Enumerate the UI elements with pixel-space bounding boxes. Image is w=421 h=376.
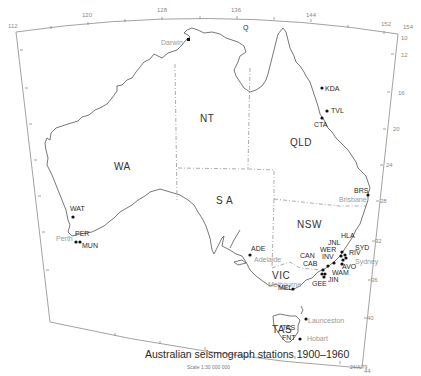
station-label-per: PER bbox=[75, 230, 89, 237]
kangaroo-island bbox=[234, 260, 246, 265]
station-dot-per bbox=[74, 240, 77, 243]
state-label-wa: WA bbox=[114, 161, 131, 172]
lon-label-154: 154 bbox=[403, 24, 414, 30]
latitude-labels: 10 12 16 20 24 28 32 36 40 44 bbox=[364, 35, 408, 374]
border-nt-sa bbox=[178, 168, 248, 169]
border-sa-qld bbox=[248, 169, 274, 199]
state-label-nt: NT bbox=[200, 113, 214, 124]
spencer-gulf bbox=[230, 230, 240, 248]
station-label-gee: GEE bbox=[312, 280, 327, 287]
state-label-qld: QLD bbox=[290, 137, 312, 148]
station-dot-darwin bbox=[187, 38, 190, 41]
top-graticule-line bbox=[16, 18, 398, 34]
station-dot-cab bbox=[321, 268, 324, 271]
flinders-island bbox=[301, 306, 303, 314]
station-dot-launceston bbox=[304, 317, 307, 320]
station-label-kda: KDA bbox=[325, 85, 340, 92]
station-label-fnt: FNT bbox=[282, 334, 296, 341]
station-dot-hla bbox=[340, 250, 343, 253]
station-dot-wer bbox=[341, 258, 344, 261]
station-dot-kda bbox=[320, 86, 323, 89]
station-labels: KDA TVL CTA BRS HLA JNL SYD RIV WER INV … bbox=[70, 85, 369, 341]
lon-label-144: 144 bbox=[306, 12, 317, 18]
station-dot-inv bbox=[332, 261, 335, 264]
station-label-brs: BRS bbox=[354, 187, 369, 194]
lat-label-12: 12 bbox=[401, 52, 408, 58]
lon-label-120: 120 bbox=[82, 12, 93, 18]
left-graticule-line bbox=[16, 32, 50, 322]
city-brisbane: Brisbane bbox=[339, 196, 367, 203]
station-label-mun: MUN bbox=[82, 242, 98, 249]
lat-label-40: 40 bbox=[367, 315, 374, 321]
lat-label-32: 32 bbox=[375, 238, 382, 244]
lon-label-152: 152 bbox=[381, 21, 392, 27]
station-label-jnl: JNL bbox=[328, 239, 341, 246]
city-launceston: Launceston bbox=[308, 317, 344, 324]
station-dot-syd bbox=[343, 253, 346, 256]
station-label-wam: WAM bbox=[332, 269, 349, 276]
lon-label-128: 128 bbox=[157, 7, 168, 13]
city-perth: Perth bbox=[56, 235, 73, 242]
city-darwin: Darwin bbox=[161, 39, 183, 46]
station-label-cta: CTA bbox=[314, 121, 328, 128]
station-dot-cta bbox=[320, 116, 323, 119]
station-label-inv: INV bbox=[322, 253, 334, 260]
map-reference: 24/A/79 bbox=[350, 364, 367, 370]
station-label-ade: ADE bbox=[251, 245, 266, 252]
city-adelaide: Adelaide bbox=[254, 256, 281, 263]
station-label-tvl: TVL bbox=[331, 107, 344, 114]
state-label-nsw: NSW bbox=[297, 219, 322, 230]
australia-map: 112 120 128 136 144 152 154 10 12 16 20 … bbox=[0, 0, 421, 376]
state-label-vic: VIC bbox=[272, 270, 290, 281]
city-sydney: Sydney bbox=[355, 258, 379, 266]
station-label-wer: WER bbox=[320, 246, 336, 253]
station-label-tas: TAS bbox=[282, 324, 295, 331]
station-label-can: CAN bbox=[300, 252, 315, 259]
station-dot-jin bbox=[323, 272, 326, 275]
bottom-graticule-line bbox=[50, 322, 362, 368]
lat-label-20: 20 bbox=[393, 126, 400, 132]
map-title: Australian seismograph stations 1900–196… bbox=[145, 348, 349, 360]
station-label-jin: JIN bbox=[328, 276, 339, 283]
lat-label-10: 10 bbox=[401, 35, 408, 41]
station-label-mel: MEL bbox=[278, 284, 293, 291]
lon-label-136: 136 bbox=[231, 7, 242, 13]
lat-label-16: 16 bbox=[398, 90, 405, 96]
graticule-frame bbox=[16, 16, 398, 368]
station-dot-wat bbox=[71, 215, 74, 218]
lat-label-24: 24 bbox=[386, 162, 393, 168]
border-wa-nt-sa bbox=[175, 64, 177, 200]
station-dot-wam bbox=[320, 272, 323, 275]
state-label-sa: S A bbox=[216, 195, 233, 206]
station-dot-ade bbox=[248, 253, 251, 256]
map-scale: Scale 1:30 000 000 bbox=[187, 364, 230, 370]
city-hobart: Hobart bbox=[307, 335, 328, 342]
station-label-cab: CAB bbox=[303, 260, 318, 267]
station-dot-riv bbox=[344, 256, 347, 259]
station-markers bbox=[71, 38, 369, 341]
label-q: Q bbox=[243, 24, 249, 32]
station-label-wat: WAT bbox=[70, 205, 85, 212]
border-nt-qld bbox=[248, 68, 250, 168]
lat-label-36: 36 bbox=[371, 277, 378, 283]
station-dot-jnl bbox=[339, 254, 342, 257]
lon-label-112: 112 bbox=[8, 23, 18, 29]
station-dot-tvl bbox=[325, 109, 328, 112]
station-dot-fnt bbox=[298, 337, 301, 340]
station-dot-gee bbox=[322, 275, 325, 278]
station-label-riv: RIV bbox=[349, 249, 361, 256]
station-dot-can bbox=[326, 264, 329, 267]
lat-label-28: 28 bbox=[380, 198, 387, 204]
station-label-hla: HLA bbox=[341, 232, 355, 239]
